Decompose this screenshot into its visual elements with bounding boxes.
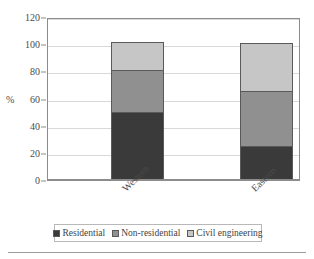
y-axis-title: % (6, 95, 14, 105)
legend-label: Non-residential (121, 228, 180, 238)
y-axis-tick-label: 0 (35, 176, 40, 186)
legend-label: Civil engineering (196, 228, 262, 238)
bar-western (111, 17, 164, 180)
y-axis-tick-label: 20 (30, 149, 40, 159)
bar-segment-non-residential (240, 91, 293, 146)
chart-legend: ResidentialNon-residentialCivil engineer… (54, 224, 262, 242)
y-axis-tick-mark (41, 99, 46, 100)
y-axis-tick-label: 80 (30, 67, 40, 77)
y-axis-tick-mark (41, 153, 46, 154)
legend-item-residential[interactable]: Residential (53, 228, 105, 238)
y-axis-tick-mark (41, 72, 46, 73)
bar-eastern (240, 17, 293, 180)
legend-swatch-icon (187, 230, 194, 237)
y-axis-tick-mark (41, 181, 46, 182)
y-axis-tick-mark (41, 126, 46, 127)
y-axis-tick-mark (41, 18, 46, 19)
legend-item-civil-engineering[interactable]: Civil engineering (187, 228, 262, 238)
legend-item-non-residential[interactable]: Non-residential (112, 228, 180, 238)
y-axis-tick-mark (41, 45, 46, 46)
legend-swatch-icon (112, 230, 119, 237)
legend-swatch-icon (53, 230, 60, 237)
plot-area (47, 18, 300, 181)
y-axis-tick-label: 40 (30, 122, 40, 132)
bottom-rule-divider (8, 252, 306, 253)
y-axis-tick-label: 100 (25, 40, 40, 50)
bar-segment-civil-engineering (111, 42, 164, 72)
stacked-bar-chart-figure: 020406080100120 % WesternEastern Residen… (0, 0, 314, 259)
y-axis-tick-label: 120 (25, 13, 40, 23)
bar-segment-non-residential (111, 70, 164, 113)
y-axis-tick-label: 60 (30, 95, 40, 105)
legend-label: Residential (62, 228, 105, 238)
bar-segment-civil-engineering (240, 43, 293, 92)
